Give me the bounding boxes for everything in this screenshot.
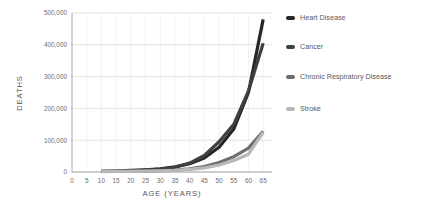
legend-label: Heart Disease	[300, 14, 346, 21]
x-axis-tick-labels: 05101520253035404550556065	[70, 177, 267, 184]
x-tick-label: 25	[142, 177, 150, 184]
x-tick-label: 15	[113, 177, 121, 184]
x-tick-label: 50	[216, 177, 224, 184]
x-tick-label: 20	[127, 177, 135, 184]
legend-label: Chronic Respiratory Disease	[300, 73, 391, 80]
x-tick-label: 65	[260, 177, 268, 184]
data-series-lines	[101, 19, 263, 171]
y-axis-title: DEATHS	[15, 75, 24, 111]
y-gridlines	[72, 13, 272, 172]
x-tick-label: 35	[171, 177, 179, 184]
legend-swatch-icon	[286, 45, 295, 49]
legend-label: Cancer	[300, 43, 323, 50]
legend-label: Stroke	[300, 105, 321, 112]
legend-item[interactable]: Stroke	[286, 105, 321, 112]
x-tick-label: 30	[157, 177, 165, 184]
x-tick-label: 10	[98, 177, 106, 184]
x-axis-title: AGE (YEARS)	[143, 189, 202, 198]
y-tick-label: 300,000	[44, 73, 68, 80]
legend-item[interactable]: Heart Disease	[286, 14, 346, 21]
x-tick-label: 45	[201, 177, 209, 184]
legend-item[interactable]: Chronic Respiratory Disease	[286, 73, 391, 80]
legend-item[interactable]: Cancer	[286, 43, 323, 50]
chart-svg: 0100,000200,000300,000400,000500,000 051…	[0, 0, 428, 211]
y-tick-label: 200,000	[44, 105, 68, 112]
y-tick-label: 100,000	[44, 137, 68, 144]
x-tick-label: 40	[186, 177, 194, 184]
x-tick-label: 55	[230, 177, 238, 184]
series-line	[101, 19, 263, 171]
x-tick-label: 5	[85, 177, 89, 184]
legend-swatch-icon	[286, 16, 295, 20]
legend-swatch-icon	[286, 75, 295, 79]
x-tick-label: 60	[245, 177, 253, 184]
y-tick-label: 400,000	[44, 41, 68, 48]
y-axis-tick-labels: 0100,000200,000300,000400,000500,000	[44, 9, 68, 175]
y-tick-label: 500,000	[44, 9, 68, 16]
x-gridlines	[87, 13, 263, 172]
axis-lines	[72, 13, 272, 172]
y-tick-label: 0	[63, 168, 67, 175]
legend-swatch-icon	[286, 107, 295, 111]
chart-container: 0100,000200,000300,000400,000500,000 051…	[0, 0, 428, 211]
x-tick-label: 0	[70, 177, 74, 184]
